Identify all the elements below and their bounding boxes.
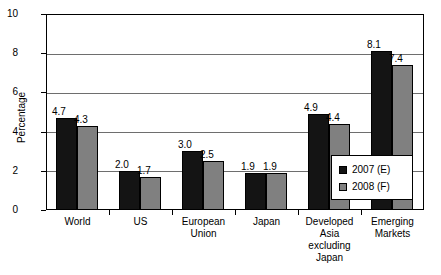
- legend-label: 2008 (F): [352, 182, 390, 192]
- bar: [308, 114, 329, 210]
- bar-value-label: 1.7: [137, 165, 151, 176]
- x-category-label: Japan: [235, 216, 298, 228]
- y-axis-title: Percentage: [16, 70, 27, 166]
- bar-value-label: 1.9: [263, 161, 277, 172]
- bar-value-label: 7.4: [389, 53, 403, 64]
- bar-group: 2.01.7: [109, 14, 172, 210]
- bar-value-label: 1.9: [241, 161, 255, 172]
- legend-label: 2007 (E): [352, 165, 390, 175]
- bar: [56, 118, 77, 210]
- y-tick-label: 2: [0, 166, 18, 176]
- bar: [266, 173, 287, 210]
- y-tick-mark: [41, 210, 46, 211]
- bar-group: 4.74.3: [46, 14, 109, 210]
- bar-value-label: 3.0: [178, 139, 192, 150]
- bar-value-label: 2.5: [200, 149, 214, 160]
- bar: [119, 171, 140, 210]
- y-tick-label: 10: [0, 9, 18, 19]
- y-tick-label: 4: [0, 127, 18, 137]
- y-tick-label: 0: [0, 205, 18, 215]
- y-tick-label: 8: [0, 48, 18, 58]
- x-tick-mark: [235, 210, 236, 215]
- bar-group: 3.02.5: [172, 14, 235, 210]
- legend-item: 2007 (E): [339, 161, 412, 178]
- x-tick-mark: [361, 210, 362, 215]
- bar-value-label: 4.3: [74, 114, 88, 125]
- x-tick-mark: [172, 210, 173, 215]
- bar: [182, 151, 203, 210]
- bar-value-label: 4.9: [304, 102, 318, 113]
- x-tick-mark: [109, 210, 110, 215]
- x-tick-mark: [298, 210, 299, 215]
- chart-legend: 2007 (E) 2008 (F): [331, 155, 413, 200]
- bar-value-label: 2.0: [115, 159, 129, 170]
- bar: [140, 177, 161, 210]
- bar-group: 1.91.9: [235, 14, 298, 210]
- bar: [203, 161, 224, 210]
- x-category-label: US: [109, 216, 172, 228]
- x-category-label: Emerging Markets: [361, 216, 424, 240]
- bar-value-label: 4.4: [326, 112, 340, 123]
- x-category-label: Developed Asia excluding Japan: [298, 216, 361, 264]
- legend-item: 2008 (F): [339, 178, 412, 195]
- x-category-label: European Union: [172, 216, 235, 240]
- legend-swatch-2008-icon: [339, 183, 347, 191]
- bar: [245, 173, 266, 210]
- bar-value-label: 8.1: [367, 39, 381, 50]
- x-category-label: World: [46, 216, 109, 228]
- bar: [77, 126, 98, 210]
- legend-swatch-2007-icon: [339, 166, 347, 174]
- y-tick-label: 6: [0, 87, 18, 97]
- bar-chart-figure: Percentage 0246810 4.74.32.01.73.02.51.9…: [0, 0, 441, 275]
- bar-value-label: 4.7: [52, 106, 66, 117]
